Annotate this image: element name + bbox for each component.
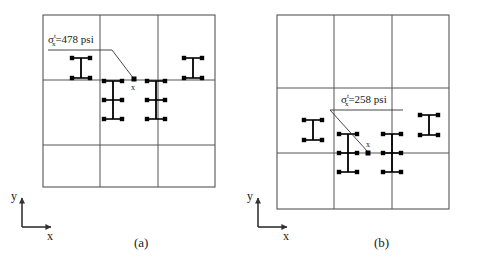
panel-b-caption: (b) (374, 236, 389, 249)
panel-a-stress-callout-label: σtx=478 psi (48, 33, 94, 48)
panel-b-point-marker-label: x (366, 141, 370, 149)
panel-a-axes (22, 198, 51, 227)
ibeam-single-right (418, 113, 440, 137)
panel-b-grid (277, 15, 449, 209)
sigma-value-text: =478 psi (55, 33, 93, 45)
panel-b-stress-callout-label: σtx=258 psi (341, 93, 387, 108)
ibeam-double-right (145, 79, 167, 121)
ibeam-single-left (70, 56, 92, 80)
panel-a-callout-leader (48, 50, 137, 82)
ibeam-double-right (381, 132, 403, 174)
panel-a-x-axis-label: x (47, 230, 53, 242)
panel-a-y-axis-label: y (11, 190, 17, 202)
callout-point-marker (366, 151, 371, 156)
callout-point-marker (132, 77, 137, 82)
panel-b-symbols (302, 113, 440, 174)
panel-a-symbols (70, 56, 204, 121)
panel-b (258, 15, 449, 227)
panel-a-caption: (a) (134, 236, 148, 249)
panel-a-point-marker-label: x (131, 84, 135, 92)
panel-b-x-axis-label: x (283, 230, 289, 242)
ibeam-single-left (302, 118, 324, 142)
ibeam-single-right (182, 56, 204, 80)
panel-b-axes (258, 198, 287, 227)
sigma-value-text: =258 psi (348, 93, 386, 105)
panel-b-y-axis-label: y (247, 190, 253, 202)
ibeam-double-left (102, 79, 124, 121)
